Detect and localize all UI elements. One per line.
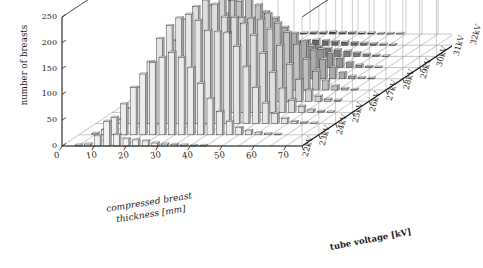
bar-side-face (127, 103, 129, 135)
bar-side-face (302, 78, 304, 101)
bar-side-face (230, 32, 232, 124)
bar-top-face (341, 87, 349, 88)
bar-top-face (262, 11, 270, 12)
y-axis-tick (62, 14, 66, 17)
bar (272, 113, 278, 123)
bar-top-face (327, 52, 335, 53)
bar (226, 121, 232, 134)
bar-top-face (368, 32, 376, 33)
bar-side-face (194, 67, 196, 135)
bar (363, 54, 369, 56)
bar-top-face (351, 88, 359, 89)
bar (233, 46, 239, 123)
bar-top-face (281, 117, 289, 118)
bar-top-face (200, 144, 208, 145)
x-tick-label: 10 (85, 149, 97, 161)
bar-side-face (249, 66, 251, 124)
bar-top-face (185, 13, 193, 14)
bar-top-face (382, 55, 390, 56)
bar (178, 57, 184, 134)
bar-top-face (301, 41, 309, 42)
bar-top-face (310, 49, 318, 50)
bar-top-face (159, 56, 167, 57)
bar (346, 62, 352, 67)
bar-top-face (339, 71, 347, 72)
bar (325, 99, 331, 101)
bar-top-face (305, 89, 313, 90)
bar (341, 88, 347, 90)
bar (313, 71, 319, 90)
bar-top-face (121, 103, 129, 104)
bar-side-face (220, 31, 222, 124)
bar-top-face (269, 71, 277, 72)
bar (351, 43, 357, 46)
bar (344, 51, 350, 56)
bar-top-face (349, 75, 357, 76)
bar (121, 104, 127, 135)
bar-top-face (293, 43, 301, 44)
bar-group (75, 0, 404, 146)
bar-side-face (285, 88, 287, 113)
bar-top-face (161, 143, 169, 144)
bar (329, 32, 335, 34)
bar-top-face (380, 43, 388, 44)
bar-top-face (178, 56, 186, 57)
bar-side-face (203, 82, 205, 135)
bar-top-face (389, 44, 397, 45)
bar-top-face (253, 86, 261, 87)
bar-top-face (274, 22, 282, 23)
bar (349, 32, 355, 34)
x-tick-label: 20 (117, 149, 129, 161)
bar-top-face (274, 133, 282, 134)
bar-top-face (356, 64, 364, 65)
bar (291, 122, 297, 124)
y-tick-label: 100 (31, 89, 57, 98)
bar-top-face (140, 73, 148, 74)
bar (281, 118, 287, 123)
bar-top-face (152, 142, 160, 143)
bar (207, 99, 213, 135)
bar-top-face (166, 24, 174, 25)
x-tick-label: 60 (245, 149, 257, 161)
bar-top-face (303, 58, 311, 59)
bar-top-face (171, 143, 179, 144)
x-tick-label: 40 (181, 149, 193, 161)
bar-top-face (197, 82, 205, 83)
bar (104, 121, 110, 146)
y-axis-tick (62, 40, 66, 43)
rightwall-top-edge (302, 0, 452, 17)
bar-top-face (397, 32, 405, 33)
bar (217, 112, 223, 135)
bar (243, 67, 249, 124)
bar-top-face (111, 116, 119, 117)
bar-top-face (308, 45, 316, 46)
x-tick-label: 30 (149, 149, 161, 161)
bar (197, 83, 203, 135)
bar (262, 103, 268, 124)
bar-top-face (188, 67, 196, 68)
bar-top-face (241, 23, 249, 24)
bar (296, 80, 302, 102)
bar (313, 40, 319, 45)
bar-top-face (181, 144, 189, 145)
bar (303, 59, 309, 90)
bar-top-face (310, 122, 318, 123)
bar-top-face (195, 19, 203, 20)
bar-top-face (250, 34, 258, 35)
bar (315, 96, 321, 101)
bar-side-face (129, 138, 131, 146)
bar (188, 68, 194, 135)
bar-top-face (113, 134, 121, 135)
bar-top-face (272, 112, 280, 113)
bar-side-face (239, 45, 241, 124)
bar (133, 140, 139, 146)
bar (236, 128, 242, 135)
bar (169, 52, 175, 135)
bar-top-face (133, 139, 141, 140)
bar-side-face (165, 56, 167, 135)
bar-top-face (243, 66, 251, 67)
bar-top-face (212, 3, 220, 4)
x-tick-label: 70 (277, 149, 289, 161)
bar-top-face (277, 44, 285, 45)
